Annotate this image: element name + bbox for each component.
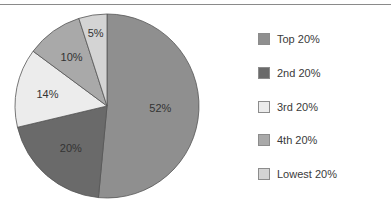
slice-label: 10% xyxy=(61,51,83,63)
legend-swatch xyxy=(258,168,270,180)
legend-label: 4th 20% xyxy=(277,134,317,146)
legend-swatch xyxy=(258,134,270,146)
pie-slices xyxy=(15,14,199,198)
legend-label: 2nd 20% xyxy=(277,67,320,79)
legend-swatch xyxy=(258,67,270,79)
legend-label: 3rd 20% xyxy=(277,101,318,113)
legend-item-top-20: Top 20% xyxy=(258,31,320,47)
slice-label: 5% xyxy=(88,27,104,39)
slice-label: 52% xyxy=(149,102,171,114)
legend-item-2nd-20: 2nd 20% xyxy=(258,65,320,81)
legend-label: Lowest 20% xyxy=(277,168,337,180)
legend-label: Top 20% xyxy=(277,33,320,45)
slice-label: 20% xyxy=(60,142,82,154)
legend-item-4th-20: 4th 20% xyxy=(258,132,317,148)
legend-swatch xyxy=(258,101,270,113)
legend-item-3rd-20: 3rd 20% xyxy=(258,99,318,115)
legend-swatch xyxy=(258,33,270,45)
legend-item-lowest-20: Lowest 20% xyxy=(258,166,337,182)
slice-label: 14% xyxy=(37,88,59,100)
